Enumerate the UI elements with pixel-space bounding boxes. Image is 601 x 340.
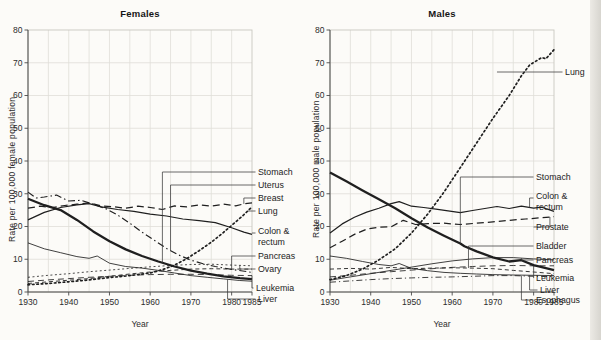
series-line-prostate: [330, 217, 554, 248]
series-breast: [28, 203, 252, 210]
males-y-axis-label: Rate per 100,000 male population: [311, 100, 321, 238]
y-tick-label: 70: [315, 58, 325, 68]
annotation-prostate: Prostate: [534, 217, 569, 232]
series-label-breast: Breast: [258, 193, 284, 203]
tick-labels: 0102030405060708019301940195019601970198…: [13, 25, 262, 307]
series-stomach: [330, 173, 554, 271]
y-tick-label: 0: [18, 287, 23, 297]
series-uterus: [28, 192, 252, 272]
y-tick-label: 0: [320, 287, 325, 297]
annotation-breast: Breast: [244, 193, 284, 204]
series-line-stomach: [28, 199, 252, 280]
x-tick-label: 1970: [483, 297, 502, 307]
males-chart: 0102030405060708019301940195019601970198…: [300, 0, 601, 340]
females-chart-title: Females: [28, 8, 252, 19]
series-label-leukemia: Leukemia: [256, 283, 294, 293]
females-y-axis-label: Rate per 100,000 female population: [7, 97, 17, 242]
x-tick-label: 1950: [402, 297, 421, 307]
x-tick-label: 1960: [141, 297, 160, 307]
series-colon-rectum: [330, 202, 554, 234]
x-tick-label: 1980: [222, 297, 241, 307]
y-tick-label: 70: [13, 58, 23, 68]
series-label-lung: Lung: [565, 67, 585, 77]
y-tick-label: 10: [13, 254, 23, 264]
series-colon-rectum: [28, 204, 252, 235]
annotation-colon-rectum: Colon &rectum: [530, 191, 568, 212]
x-tick-label: 1960: [443, 297, 462, 307]
series-label-pancreas: Pancreas: [536, 255, 574, 265]
series-label-ovary: Ovary: [258, 264, 282, 274]
series-lung: [330, 50, 554, 280]
series-label-lung: Lung: [258, 206, 278, 216]
males-x-axis-label: Year: [330, 319, 554, 329]
series-label-bladder: Bladder: [536, 241, 566, 251]
series-label-liver: Liver: [258, 294, 277, 304]
series-prostate: [330, 217, 554, 248]
x-tick-label: 1940: [59, 297, 78, 307]
y-tick-label: 10: [315, 254, 325, 264]
series-line-stomach: [330, 173, 554, 271]
females-chart: 0102030405060708019301940195019601970198…: [0, 0, 300, 340]
series-stomach: [28, 199, 252, 280]
x-tick-label: 1970: [181, 297, 200, 307]
annotation-lung: Lung: [497, 67, 585, 77]
series-line-lung: [330, 50, 554, 280]
females-x-axis-label: Year: [28, 319, 252, 329]
series-label-stomach: Stomach: [536, 172, 571, 182]
series-line-esophagus: [330, 276, 554, 283]
series-label-uterus: Uterus: [258, 180, 285, 190]
x-tick-label: 1930: [321, 297, 340, 307]
x-tick-label: 1940: [361, 297, 380, 307]
tick-labels: 0102030405060708019301940195019601970198…: [315, 25, 564, 307]
males-chart-title: Males: [330, 8, 554, 19]
series-line-colon-rectum: [330, 202, 554, 234]
y-tick-label: 80: [315, 25, 325, 35]
series-label-esophagus: Esophagus: [536, 295, 581, 305]
series-line-uterus: [28, 192, 252, 272]
scanned-page-edge: [590, 0, 601, 340]
y-tick-label: 60: [315, 90, 325, 100]
series-label-colon-rectum: rectum: [258, 237, 285, 247]
annotation-colon-rectum: Colon &rectum: [252, 226, 289, 247]
x-tick-label: 1950: [100, 297, 119, 307]
series-label-colon-rectum: rectum: [536, 202, 563, 212]
series-line-breast: [28, 203, 252, 210]
x-tick-label: 1930: [19, 297, 38, 307]
series-label-colon-rectum: Colon &: [258, 226, 289, 236]
series-label-stomach: Stomach: [258, 167, 293, 177]
series-label-pancreas: Pancreas: [258, 251, 296, 261]
y-tick-label: 80: [13, 25, 23, 35]
series-label-liver: Liver: [540, 285, 559, 295]
annotation-ovary: Ovary: [240, 264, 282, 274]
series-esophagus: [330, 276, 554, 283]
figure-cancer-death-rates: 0102030405060708019301940195019601970198…: [0, 0, 601, 340]
series-label-leukemia: Leukemia: [536, 273, 574, 283]
annotation-leukemia: Leukemia: [252, 276, 294, 293]
grid-lines: [330, 30, 554, 292]
series-label-colon-rectum: Colon &: [536, 191, 567, 201]
series-label-prostate: Prostate: [536, 222, 569, 232]
series-line-colon-rectum: [28, 204, 252, 235]
